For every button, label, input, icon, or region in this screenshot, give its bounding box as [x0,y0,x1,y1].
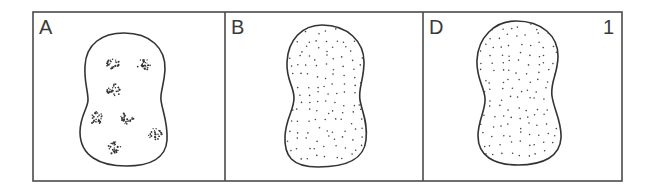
panel-d-label: D [429,16,443,38]
panel-a-label: A [39,16,53,38]
panel-a-cell-outline [80,33,167,166]
panel-b-cell-outline [285,25,366,167]
panel-d-stipple [480,23,557,156]
figure: A B D 1 [0,0,653,189]
panel-b-stipple [287,28,363,160]
figure-frame [33,12,622,181]
panel-b: B [231,16,366,167]
panel-d-cell-outline [477,21,561,165]
figure-number: 1 [603,16,614,38]
chromatin-clusters [91,59,163,155]
panel-a: A [39,16,167,166]
panel-d: D 1 [429,16,614,165]
panel-b-label: B [231,16,244,38]
